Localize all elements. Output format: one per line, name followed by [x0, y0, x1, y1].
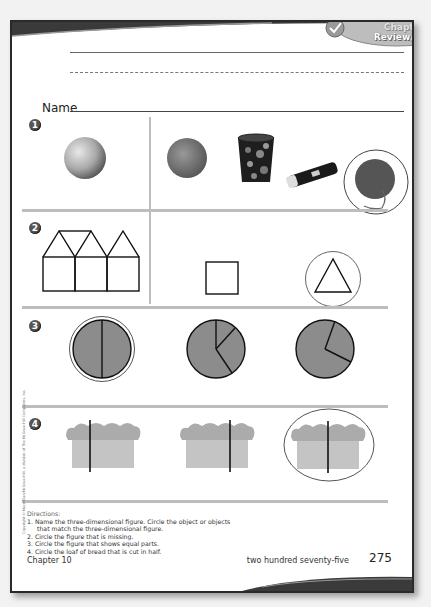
section-divider-1 [22, 209, 388, 212]
section-divider-4 [22, 500, 388, 503]
direction-item-2: 2. Circle the figure that is missing. [27, 533, 230, 541]
ball-of-yarn-choice[interactable] [342, 148, 410, 216]
direction-num: 2. [27, 533, 33, 540]
problem-number-2: 2 [29, 222, 41, 234]
problem-number-3: 3 [29, 320, 41, 332]
direction-num: 4. [27, 548, 33, 555]
direction-item-4: 4. Circle the loaf of bread that is cut … [27, 548, 230, 556]
circle-two-unequal-parts-choice[interactable] [294, 318, 356, 380]
name-label: Name [42, 101, 77, 115]
sphere-ball-image [63, 136, 107, 180]
problem-number-4: 4 [29, 418, 41, 430]
problem-number-1: 1 [29, 119, 41, 131]
writing-line-dashed [70, 72, 404, 73]
page-number-words: two hundred seventy-five [247, 556, 349, 565]
direction-text: Circle the loaf of bread that is cut in … [35, 548, 162, 555]
badge-label: Chapter Review/Test [364, 22, 414, 42]
bread-cut-right-choice[interactable] [178, 418, 258, 474]
chapter-label: Chapter 10 [27, 556, 72, 565]
direction-num: 1. [27, 518, 33, 525]
divider-vertical-1 [149, 117, 151, 209]
direction-item-1: 1. Name the three-dimensional figure. Ci… [27, 518, 230, 526]
name-input-line[interactable] [70, 111, 404, 112]
badge-line2: Review/Test [364, 32, 414, 42]
directions-title: Directions: [27, 510, 230, 518]
direction-item-1-cont: that match the three-dimensional figure. [27, 525, 230, 533]
copyright-notice: Copyright © Macmillan/McGraw-Hill, a div… [22, 374, 26, 534]
badge-line1: Chapter [364, 22, 414, 32]
three-houses-pattern [42, 229, 142, 295]
square-choice[interactable] [204, 260, 240, 296]
worksheet-page: Chapter Review/Test Name 1 2 [10, 20, 414, 593]
direction-item-3: 3. Circle the figure that shows equal pa… [27, 540, 230, 548]
flashlight-choice[interactable] [282, 160, 342, 190]
orange-choice[interactable] [166, 137, 208, 179]
direction-text: Name the three-dimensional figure. Circl… [35, 518, 230, 525]
circle-halves-choice-circled[interactable] [68, 315, 136, 383]
writing-line-top [70, 52, 404, 53]
circle-three-unequal-parts-choice[interactable] [185, 318, 247, 380]
directions-block: Directions: 1. Name the three-dimensiona… [27, 510, 230, 556]
direction-text: Circle the figure that shows equal parts… [35, 540, 159, 547]
divider-vertical-2 [149, 212, 151, 304]
bread-cut-left-choice[interactable] [64, 418, 144, 474]
cylinder-tin-can-choice[interactable] [236, 132, 276, 184]
bread-cut-middle-choice-circled[interactable] [282, 407, 376, 483]
triangle-choice-circled[interactable] [304, 250, 362, 308]
page-number: 275 [369, 551, 392, 565]
direction-num: 3. [27, 540, 33, 547]
direction-text: Circle the figure that is missing. [35, 533, 134, 540]
section-divider-2 [22, 306, 388, 309]
footer-swoosh [12, 575, 414, 591]
